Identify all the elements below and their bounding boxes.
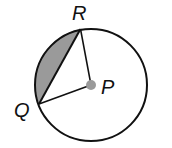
circle-diagram: R Q P xyxy=(0,0,172,148)
center-point xyxy=(86,80,96,90)
label-p: P xyxy=(101,76,115,98)
label-r: R xyxy=(72,2,86,24)
label-q: Q xyxy=(14,99,30,121)
radius-pr xyxy=(81,29,92,85)
